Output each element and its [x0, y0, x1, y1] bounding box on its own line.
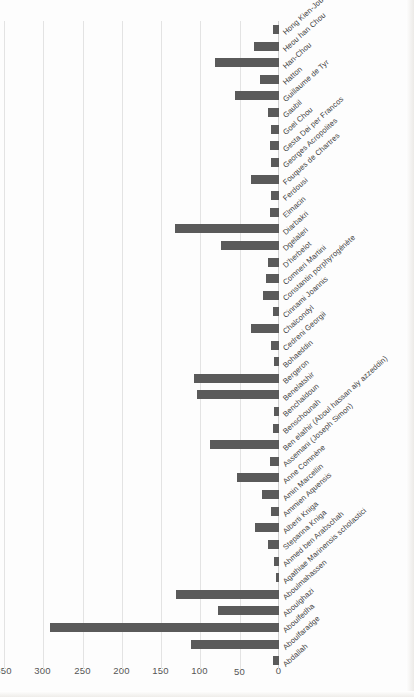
bar: [273, 307, 279, 316]
bar: [194, 374, 279, 383]
bar: [260, 75, 279, 84]
bar: [274, 557, 279, 566]
bar: [274, 357, 279, 366]
bar-cell: [4, 54, 279, 71]
bar-cell: [4, 138, 279, 155]
bar-cell: [4, 38, 279, 55]
bar-cell: [4, 254, 279, 271]
bar: [276, 573, 279, 582]
bar: [268, 540, 279, 549]
bar: [273, 424, 279, 433]
bar: [210, 440, 279, 449]
bar: [251, 324, 279, 333]
bar: [270, 208, 279, 217]
bar-cell: [4, 403, 279, 420]
bar-cell: [4, 187, 279, 204]
bar: [262, 490, 279, 499]
bar-cell: [4, 71, 279, 88]
bar-cell: [4, 370, 279, 387]
bar: [221, 241, 279, 250]
bar-cell: [4, 287, 279, 304]
bar-cell: [4, 304, 279, 321]
bar-chart: 050100150200250300350 AbdallahAboulfarad…: [0, 0, 414, 697]
bar: [270, 141, 279, 150]
bar: [266, 274, 279, 283]
bar: [197, 390, 279, 399]
bar-cell: [4, 154, 279, 171]
bar: [263, 291, 279, 300]
bar: [271, 341, 279, 350]
bar-cell: [4, 553, 279, 570]
bar-cell: [4, 619, 279, 636]
bar-cell: [4, 503, 279, 520]
bar-cell: [4, 569, 279, 586]
bar-cell: [4, 221, 279, 238]
screenshot-page: 050100150200250300350 AbdallahAboulfarad…: [0, 0, 414, 697]
bar: [273, 25, 279, 34]
bar-cell: [4, 337, 279, 354]
bar-cell: [4, 353, 279, 370]
bar-cell: [4, 536, 279, 553]
bar: [270, 457, 279, 466]
bar: [271, 158, 279, 167]
bar-cell: [4, 270, 279, 287]
bar: [271, 191, 279, 200]
rotated-chart-wrapper: 050100150200250300350 AbdallahAboulfarad…: [0, 0, 414, 697]
plot-area: [4, 21, 279, 669]
bar: [271, 507, 279, 516]
bar: [274, 407, 279, 416]
bar: [268, 258, 279, 267]
bar-cell: [4, 21, 279, 38]
bar: [191, 640, 279, 649]
bar: [176, 590, 279, 599]
bar-cell: [4, 520, 279, 537]
bar-series: [4, 21, 279, 669]
bar-cell: [4, 88, 279, 105]
bar: [273, 656, 279, 665]
bar-cell: [4, 486, 279, 503]
bar-cell: [4, 121, 279, 138]
bar-cell: [4, 387, 279, 404]
bar-cell: [4, 470, 279, 487]
bar-cell: [4, 453, 279, 470]
bar: [268, 108, 279, 117]
bar: [271, 125, 279, 134]
bar: [50, 623, 279, 632]
bar-cell: [4, 204, 279, 221]
value-axis-ticks: 050100150200250300350: [4, 669, 279, 697]
bar: [237, 474, 279, 483]
bar: [235, 91, 279, 100]
bar: [251, 175, 279, 184]
bar-cell: [4, 237, 279, 254]
category-axis-labels: AbdallahAboulfaradgeAboulfedhaAboulghazi…: [281, 21, 413, 669]
bar-cell: [4, 586, 279, 603]
bar-cell: [4, 603, 279, 620]
bar-cell: [4, 320, 279, 337]
bar: [254, 42, 279, 51]
bar-cell: [4, 636, 279, 653]
bar: [175, 224, 279, 233]
bar-cell: [4, 104, 279, 121]
bar: [215, 58, 279, 67]
bar: [255, 523, 279, 532]
bar-cell: [4, 171, 279, 188]
bar-cell: [4, 420, 279, 437]
bar-cell: [4, 436, 279, 453]
bar: [218, 606, 279, 615]
bar-cell: [4, 652, 279, 669]
